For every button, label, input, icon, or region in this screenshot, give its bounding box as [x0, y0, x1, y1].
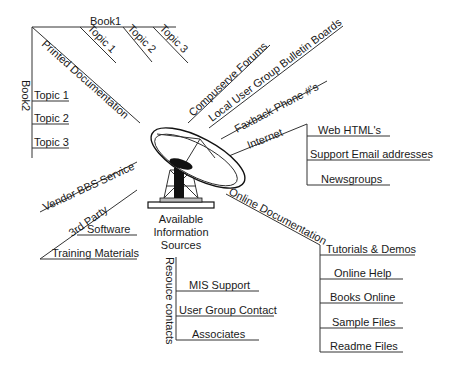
center-label: Available Information Sources: [153, 213, 208, 251]
resource-child-user-group-contact: User Group Contact: [179, 304, 277, 316]
online-documentation-label: Online Documentation: [227, 185, 329, 247]
third-party-child-training-materials: Training Materials: [52, 247, 140, 259]
mind-map-diagram: Printed Documentation Book1 Topic 1 Topi…: [0, 0, 453, 367]
center-label-line-3: Sources: [161, 239, 202, 251]
internet-label: Internet: [245, 126, 284, 151]
branch-internet: Internet Web HTML's Support Email addres…: [224, 124, 433, 185]
branch-resource-contacts: Resouce contacts MIS Support User Group …: [164, 257, 277, 345]
internet-child-web-htmls: Web HTML's: [318, 124, 382, 136]
branch-online-documentation: Online Documentation Tutorials & Demos O…: [226, 185, 417, 352]
internet-child-newsgroups: Newsgroups: [321, 173, 383, 185]
center-label-line-1: Available: [159, 213, 203, 225]
online-doc-child-sample-files: Sample Files: [332, 316, 396, 328]
center-label-line-2: Information: [153, 226, 208, 238]
book2-topic-2: Topic 2: [34, 112, 69, 124]
resource-child-associates: Associates: [192, 328, 246, 340]
internet-child-support-email: Support Email addresses: [310, 148, 433, 160]
resource-child-mis-support: MIS Support: [189, 279, 250, 291]
resource-contacts-label: Resouce contacts: [164, 257, 176, 345]
online-doc-child-books-online: Books Online: [330, 291, 395, 303]
vendor-bbs-label: Vendor BBS Service: [41, 160, 136, 213]
online-doc-child-tutorials: Tutorials & Demos: [326, 243, 417, 255]
online-doc-child-readme-files: Readme Files: [330, 340, 398, 352]
online-doc-child-online-help: Online Help: [334, 267, 391, 279]
book2-topic-1: Topic 1: [34, 89, 69, 101]
branch-vendor-bbs: Vendor BBS Service: [40, 160, 137, 213]
book2-topic-3: Topic 3: [34, 136, 69, 148]
book2-label: Book2: [20, 80, 32, 111]
printed-documentation-label: Printed Documentation: [40, 38, 132, 121]
third-party-child-software: Software: [87, 223, 130, 235]
